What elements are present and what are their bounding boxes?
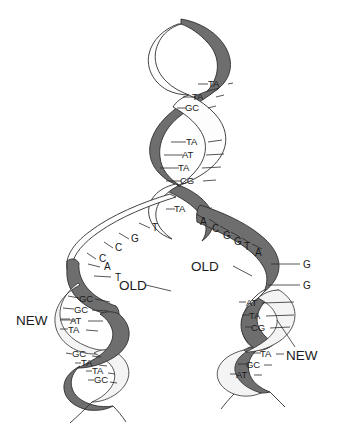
left-arm-light-strand <box>67 194 176 283</box>
parent-old-backbone <box>181 19 230 97</box>
base-pair-label: GC <box>74 304 88 315</box>
unpaired-base-label: C <box>212 223 219 234</box>
new-left-label: NEW <box>16 313 48 328</box>
base-pair-label: AT <box>246 297 257 308</box>
base-pair-label: TA <box>174 203 186 214</box>
base-pair-label: TA <box>260 348 272 359</box>
base-pair-label: TA <box>208 78 220 89</box>
old-right-leader-line <box>233 266 252 276</box>
unpaired-base-label: G <box>234 236 242 247</box>
unpaired-base-label: A <box>200 216 207 227</box>
parent-light-backbone <box>148 24 189 95</box>
base-pair-label: GC <box>94 374 108 385</box>
base-pair-label: CG <box>251 322 265 333</box>
unpaired-base-label: G <box>223 230 231 241</box>
old-left-leader-line <box>146 285 171 291</box>
unpaired-base-label: G <box>131 233 139 244</box>
base-pair-label: GC <box>246 359 260 370</box>
base-pair-label: TA <box>192 91 204 102</box>
base-pair-label: CG <box>180 175 194 186</box>
unpaired-base-label: G <box>303 259 311 270</box>
base-pair-label: TA <box>186 136 198 147</box>
right-daughter-duplex: G G AT TA CG TA GC <box>217 259 311 409</box>
left-duplex-tail-2 <box>113 406 126 422</box>
parent-duplex: TA TA GC TA AT TA CG TA <box>148 19 233 241</box>
fork-right-arm: A C G G T A <box>196 205 279 350</box>
dna-replication-diagram: TA TA GC TA AT TA CG TA T G C <box>0 0 337 427</box>
left-daughter-old-strand-2 <box>64 366 113 410</box>
unpaired-base-label: G <box>303 280 311 291</box>
new-right-label: NEW <box>286 348 318 363</box>
right-arm-old-strand <box>197 205 279 292</box>
base-pair-label: TA <box>68 324 80 335</box>
right-duplex-tail-2 <box>270 392 285 407</box>
base-pair-label: GC <box>79 293 93 304</box>
base-pair-label: TA <box>249 310 261 321</box>
unpaired-base-label: T <box>152 222 158 233</box>
right-duplex-tail-1 <box>221 394 234 409</box>
left-arm-base-labels: T G C C A T <box>99 222 158 283</box>
unpaired-base-label: A <box>255 247 262 258</box>
old-right-label: OLD <box>191 259 219 274</box>
base-pair-label: AT <box>182 149 193 160</box>
old-left-label: OLD <box>119 278 147 293</box>
unpaired-base-label: T <box>244 241 250 252</box>
unpaired-base-label: C <box>115 242 122 253</box>
base-pair-label: GC <box>185 102 199 113</box>
unpaired-base-label: A <box>104 261 111 272</box>
base-pair-label: AT <box>236 369 247 380</box>
base-pair-label: TA <box>178 162 190 173</box>
